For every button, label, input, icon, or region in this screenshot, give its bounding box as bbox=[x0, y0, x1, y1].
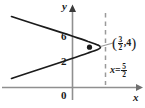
callout-x-numerator: 3 bbox=[118, 36, 124, 44]
directrix-numerator: 5 bbox=[121, 63, 127, 71]
y-tick-label-6: 6 bbox=[61, 31, 67, 42]
callout-x-fraction: 32 bbox=[118, 36, 124, 52]
vertex-point-marker bbox=[87, 45, 92, 50]
callout-x-denominator: 2 bbox=[118, 43, 124, 52]
y-axis-label: y bbox=[62, 1, 67, 12]
directrix-equals-sign: = bbox=[115, 64, 121, 75]
directrix-fraction: 52 bbox=[121, 63, 127, 79]
directrix-equation-label: x=52 bbox=[110, 63, 127, 79]
x-axis-arrowhead bbox=[136, 84, 143, 91]
y-tick-label-2: 2 bbox=[61, 56, 67, 67]
x-axis-label: x bbox=[133, 92, 139, 103]
y-axis-arrowhead bbox=[69, 5, 76, 13]
origin-label: 0 bbox=[61, 90, 67, 101]
callout-close-paren: ) bbox=[131, 35, 136, 51]
directrix-denominator: 2 bbox=[121, 70, 127, 79]
callout-open-paren: ( bbox=[112, 35, 117, 51]
graph-canvas bbox=[0, 0, 145, 108]
parabola-figure: 6 2 0 y x (32,4) x=52 bbox=[0, 0, 145, 108]
y-axis bbox=[69, 5, 76, 101]
point-callout-label: (32,4) bbox=[112, 36, 136, 52]
